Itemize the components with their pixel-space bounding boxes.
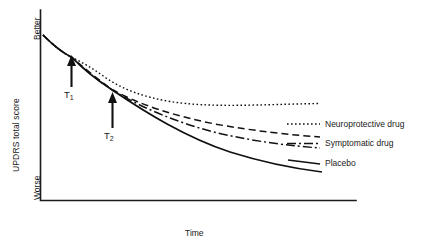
annotation-label-t2-subscript: 2: [110, 135, 114, 142]
series-line-placebo: [43, 35, 322, 172]
y-axis-worse-label: Worse: [33, 176, 42, 200]
y-axis-better-label: Better: [33, 17, 42, 40]
annotation-label-t1-text: T: [64, 89, 70, 100]
chart-container: UPDRS total score Better Worse Time T1 T…: [0, 0, 421, 246]
annotation-label-t2: T2: [104, 131, 114, 141]
annotation-label-t2-text: T: [104, 130, 110, 141]
annotation-label-t1: T1: [64, 90, 74, 100]
legend-label-neuroprotective-drug: Neuroprotective drug: [325, 120, 404, 129]
legend-label-symptomatic-drug: Symptomatic drug: [325, 139, 394, 148]
x-axis-title: Time: [185, 229, 204, 238]
legend-label-placebo: Placebo: [325, 159, 356, 168]
y-axis-title: UPDRS total score: [12, 98, 21, 172]
annotation-arrow-t2: [108, 92, 117, 128]
annotation-label-t1-subscript: 1: [70, 94, 74, 101]
legend-sample-placebo: [288, 160, 320, 164]
chart-axes: [41, 10, 357, 201]
